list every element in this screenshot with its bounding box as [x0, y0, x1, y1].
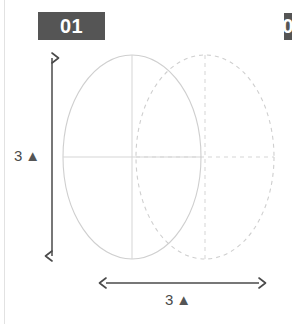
next-figure-number-label: 0 [284, 15, 292, 38]
next-figure-badge-clipped: 0 [284, 13, 292, 40]
figure-canvas: 01 0 3 ▲ 3 ▲ [0, 0, 292, 324]
vertical-dimension-value: 3 [14, 147, 22, 164]
triangle-up-icon: ▲ [176, 292, 191, 307]
figure-number-label: 01 [60, 15, 83, 38]
horizontal-dimension-value: 3 [165, 291, 173, 308]
figure-number-badge: 01 [38, 12, 105, 40]
geometry-figure [0, 0, 292, 324]
triangle-up-icon: ▲ [25, 148, 40, 163]
solid-ellipse-group [63, 55, 201, 259]
vertical-dimension-label: 3 ▲ [14, 147, 40, 164]
horizontal-dimension-label: 3 ▲ [165, 291, 191, 308]
